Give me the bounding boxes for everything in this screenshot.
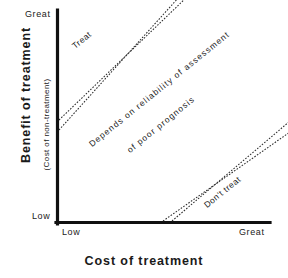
y-axis-title: Benefit of treatment [19,43,33,163]
lower-boundary-band [163,121,288,221]
lower-band-line-b [172,121,288,221]
y-axis-tick-bottom: Low [32,211,50,221]
chart-figure: Benefit of treatment (Cost of non-treatm… [0,0,288,278]
x-axis-title: Cost of treatment [0,254,288,268]
x-axis-tick-left: Low [62,227,80,237]
y-axis-tick-top: Great [25,9,51,19]
lower-band-line-a [163,132,288,221]
x-axis-tick-right: Great [239,227,265,237]
upper-band-line-b [59,0,188,120]
upper-band-line-a [59,0,180,130]
y-axis-subtitle: (Cost of non-treatment) [42,73,51,177]
